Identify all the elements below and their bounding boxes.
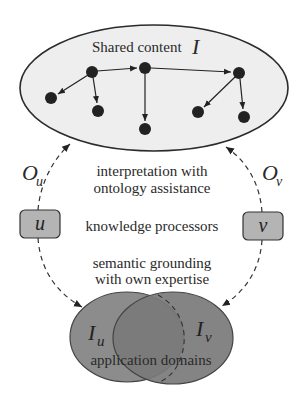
ontology-label-right: O v <box>262 160 283 189</box>
left-lower-dashed-arrow <box>38 238 82 307</box>
knowledge-processors-label: knowledge processors <box>86 218 219 234</box>
graph-node <box>86 66 98 78</box>
center-labels: interpretation with ontology assistance … <box>86 163 219 287</box>
domain-v-ellipse <box>113 292 233 384</box>
application-domains-caption: application domains <box>90 352 211 368</box>
graph-node <box>45 92 57 104</box>
application-domains: I u I v application domains <box>70 292 233 384</box>
svg-text:u: u <box>97 333 105 349</box>
right-upper-dashed-arrow <box>226 147 262 212</box>
svg-text:u: u <box>35 212 45 234</box>
graph-node <box>192 106 204 118</box>
graph-node <box>238 111 250 123</box>
grounding-line-2: with own expertise <box>95 271 209 287</box>
shared-content-title: Shared content <box>92 39 182 55</box>
interpretation-line-1: interpretation with <box>96 163 208 179</box>
interpretation-line-2: ontology assistance <box>93 180 210 196</box>
graph-node <box>139 62 151 74</box>
processor-v: v <box>243 212 283 240</box>
svg-text:v: v <box>259 214 268 236</box>
grounding-line-1: semantic grounding <box>93 255 212 271</box>
graph-node <box>139 123 151 135</box>
ontology-label-left: O u <box>22 160 43 189</box>
diagram-canvas: Shared content I O u O v u v <box>0 0 303 401</box>
svg-text:u: u <box>36 174 43 189</box>
svg-text:v: v <box>276 174 283 189</box>
svg-text:v: v <box>205 329 212 345</box>
right-lower-dashed-arrow <box>222 240 262 306</box>
graph-node <box>233 67 245 79</box>
graph-node <box>92 105 104 117</box>
processor-u: u <box>20 210 60 238</box>
